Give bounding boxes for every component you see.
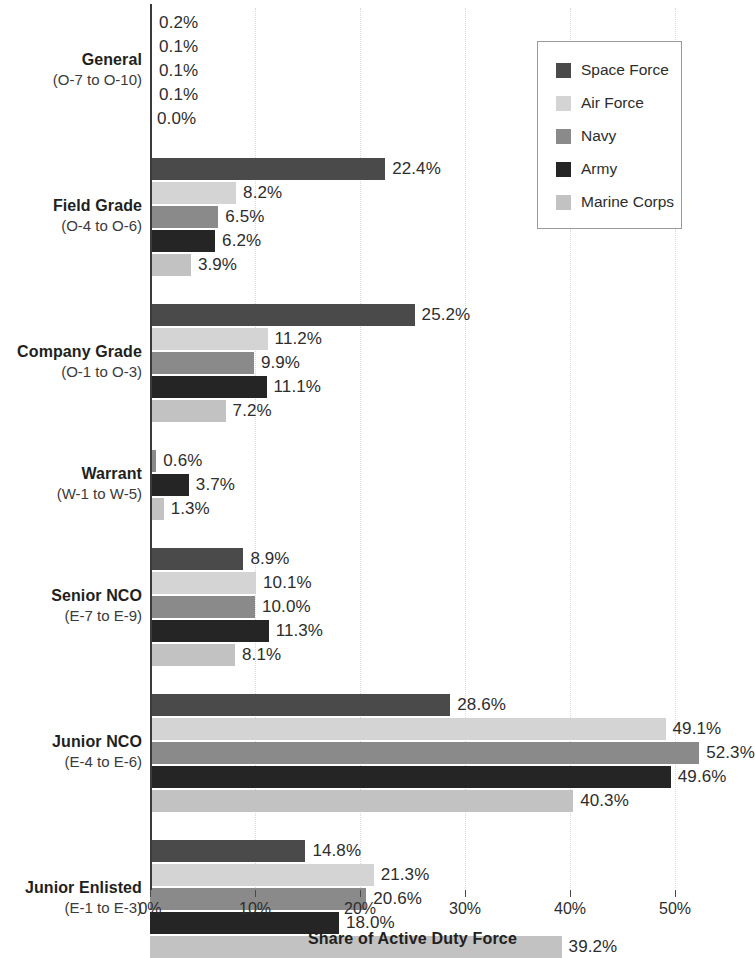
bar-value-label: 28.6% [457,695,506,715]
bar [150,644,235,666]
bar-value-label: 0.1% [159,37,198,57]
bar [150,254,191,276]
bar [150,230,215,252]
legend-item[interactable]: Space Force [556,60,681,80]
bar-value-label: 49.1% [673,719,722,739]
bar [150,766,671,788]
category-label: Company Grade(O-1 to O-3) [2,342,142,382]
x-tick-mark [360,890,361,897]
legend-swatch-icon [556,129,571,144]
bar-row: 21.3% [150,864,429,886]
legend-item[interactable]: Air Force [556,93,681,113]
bar-row: 49.1% [150,718,721,740]
x-axis: 0%10%20%30%40%50% [150,890,675,930]
bar-row: 52.3% [150,742,755,764]
bar [150,376,267,398]
category-sublabel: (E-1 to E-3) [2,898,142,917]
bar [150,694,450,716]
x-tick-mark [255,890,256,897]
category-name: Field Grade [2,196,142,216]
bar [150,840,305,862]
bar-row: 14.8% [150,840,361,862]
legend-item[interactable]: Navy [556,126,681,146]
bar [150,158,385,180]
bar-row: 0.2% [150,12,198,34]
bar [150,572,256,594]
bar-value-label: 7.2% [233,401,272,421]
bar-row: 6.2% [150,230,261,252]
bar-group: 8.9%10.1%10.0%11.3%8.1% [150,548,675,666]
category-label: Field Grade(O-4 to O-6) [2,196,142,236]
bar-row: 0.1% [150,36,198,58]
x-tick-label: 50% [659,900,691,918]
bar-value-label: 8.9% [250,549,289,569]
bar-value-label: 10.0% [262,597,311,617]
category-label: General(O-7 to O-10) [2,50,142,90]
bar-value-label: 0.1% [159,61,198,81]
legend-item[interactable]: Army [556,159,681,179]
bar-row: 6.5% [150,206,264,228]
legend-label: Air Force [581,94,644,112]
category-name: Senior NCO [2,586,142,606]
bar-value-label: 25.2% [422,305,471,325]
category-label: Junior Enlisted(E-1 to E-3) [2,878,142,918]
bar [150,864,374,886]
bar-row: 11.3% [150,620,323,642]
bar [150,328,268,350]
bar-row: 11.1% [150,376,321,398]
bar-value-label: 0.1% [159,85,198,105]
bar [150,352,254,374]
category-sublabel: (E-4 to E-6) [2,752,142,771]
x-tick-label: 0% [138,900,161,918]
bar-value-label: 11.1% [274,377,321,397]
legend-swatch-icon [556,195,571,210]
legend-swatch-icon [556,96,571,111]
bar-row: 0.1% [150,84,198,106]
bar-value-label: 52.3% [706,743,755,763]
category-label: Warrant(W-1 to W-5) [2,464,142,504]
category-name: General [2,50,142,70]
bar [150,474,189,496]
legend-swatch-icon [556,63,571,78]
bar-value-label: 40.3% [580,791,629,811]
legend-item[interactable]: Marine Corps [556,192,681,212]
bar-row: 8.9% [150,548,290,570]
bar-value-label: 14.8% [312,841,361,861]
bar-row: 1.3% [150,498,210,520]
category-name: Company Grade [2,342,142,362]
legend-label: Navy [581,127,616,145]
bar-row: 3.7% [150,474,235,496]
category-name: Junior Enlisted [2,878,142,898]
bar-row: 11.2% [150,328,322,350]
bar-value-label: 0.0% [157,109,196,129]
bar-group: 0.6%3.7%1.3% [150,450,675,520]
bar [150,718,666,740]
bar-value-label: 49.6% [678,767,727,787]
bar-row: 9.9% [150,352,300,374]
bar [150,498,164,520]
bar-row: 0.0% [150,108,196,130]
category-name: Warrant [2,464,142,484]
bar [150,742,699,764]
bar-row: 28.6% [150,694,506,716]
legend-label: Space Force [581,61,669,79]
bar [150,620,269,642]
category-sublabel: (W-1 to W-5) [2,484,142,503]
bar-row: 22.4% [150,158,441,180]
bar [150,596,255,618]
bar-row: 0.6% [150,450,202,472]
bar-row: 8.1% [150,644,281,666]
bar-row: 3.9% [150,254,237,276]
bar-value-label: 22.4% [392,159,441,179]
category-sublabel: (O-7 to O-10) [2,70,142,89]
bar-row: 49.6% [150,766,727,788]
bar-value-label: 21.3% [381,865,430,885]
bar-value-label: 10.1% [263,573,312,593]
bar-value-label: 8.2% [243,183,282,203]
x-tick-mark [465,890,466,897]
bar-row: 25.2% [150,304,470,326]
bar-value-label: 0.6% [163,451,202,471]
bar-value-label: 9.9% [261,353,300,373]
bar-row: 10.0% [150,596,311,618]
bar-value-label: 0.2% [159,13,198,33]
